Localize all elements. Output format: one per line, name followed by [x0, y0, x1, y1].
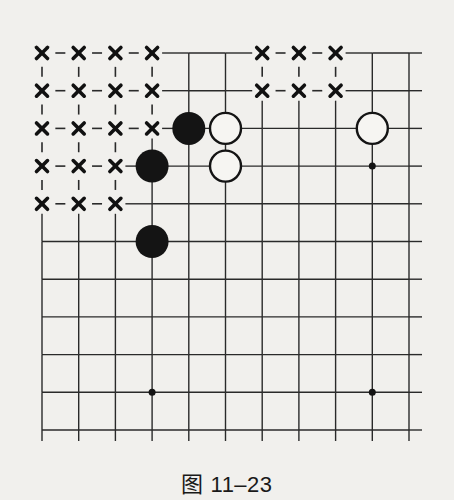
x-mark-icon	[257, 48, 268, 59]
x-mark-icon	[73, 198, 84, 209]
white-stone-icon	[210, 113, 241, 144]
black-stone-icon	[136, 150, 169, 183]
star-point-icon	[369, 389, 376, 396]
x-mark-icon	[110, 198, 121, 209]
black-stone-icon	[136, 225, 169, 258]
star-point-icon	[149, 389, 156, 396]
x-mark-icon	[37, 198, 48, 209]
x-mark-icon	[73, 48, 84, 59]
x-mark-icon	[147, 123, 158, 134]
x-mark-icon	[73, 161, 84, 172]
go-board	[0, 0, 454, 460]
board-grid	[42, 53, 422, 441]
x-mark-icon	[37, 48, 48, 59]
x-mark-icon	[110, 123, 121, 134]
x-mark-icon	[110, 48, 121, 59]
x-mark-icon	[330, 48, 341, 59]
x-mark-icon	[257, 85, 268, 96]
x-mark-icon	[293, 85, 304, 96]
x-mark-icon	[330, 85, 341, 96]
white-stone-icon	[210, 151, 241, 182]
x-mark-icon	[73, 85, 84, 96]
x-mark-icon	[147, 48, 158, 59]
x-mark-icon	[37, 161, 48, 172]
x-mark-icon	[110, 85, 121, 96]
x-mark-icon	[37, 85, 48, 96]
figure-caption: 图 11–23	[0, 466, 454, 498]
x-mark-icon	[73, 123, 84, 134]
white-stone-icon	[357, 113, 388, 144]
x-mark-icon	[293, 48, 304, 59]
x-mark-icon	[147, 85, 158, 96]
x-mark-icon	[110, 161, 121, 172]
x-mark-icon	[37, 123, 48, 134]
black-stone-icon	[172, 112, 205, 145]
star-point-icon	[369, 163, 376, 170]
